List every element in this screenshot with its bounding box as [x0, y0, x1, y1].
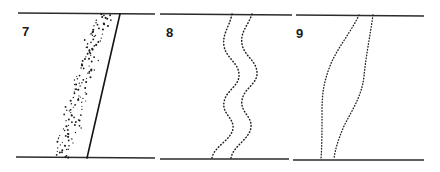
noise-dot: [59, 151, 61, 153]
noise-dot: [74, 79, 75, 80]
noise-dot: [80, 96, 81, 97]
noise-dot: [78, 95, 79, 96]
noise-dot: [85, 100, 86, 101]
noise-dot: [60, 144, 61, 145]
noise-dot: [73, 107, 74, 108]
noise-dot: [74, 124, 76, 126]
noise-dot: [62, 142, 63, 143]
noise-dot: [92, 38, 94, 40]
noise-dot: [63, 114, 65, 116]
noise-dot: [70, 109, 72, 111]
noise-dot: [90, 33, 92, 35]
noise-dot: [101, 16, 103, 18]
noise-dot: [67, 136, 69, 138]
noise-dot: [79, 75, 81, 77]
noise-dot: [93, 56, 95, 58]
noise-dot: [89, 76, 91, 78]
noise-dot: [67, 158, 68, 159]
noise-dot: [79, 82, 80, 83]
noise-dot: [74, 84, 76, 86]
figure-canvas: 7 8 9: [0, 0, 440, 172]
noise-dot: [90, 53, 92, 55]
noise-dot: [71, 114, 73, 116]
noise-dot: [67, 149, 69, 151]
rule-top-panel-9: [296, 15, 424, 16]
noise-dot: [79, 85, 80, 86]
noise-dot: [109, 14, 111, 16]
noise-dot: [90, 42, 92, 44]
noise-dot: [91, 61, 93, 63]
noise-dot: [106, 18, 108, 20]
figure-root: 7 8 9: [0, 0, 440, 172]
noise-dot: [77, 78, 79, 80]
noise-dot: [75, 88, 77, 90]
noise-dot: [98, 60, 99, 61]
noise-dot: [87, 53, 89, 55]
noise-dot: [92, 29, 94, 31]
noise-dot: [85, 81, 87, 83]
noise-dot: [87, 43, 89, 45]
noise-dot: [64, 130, 66, 132]
noise-dot: [59, 135, 60, 136]
noise-dot: [58, 137, 59, 138]
noise-dot: [56, 154, 58, 156]
noise-dot: [65, 106, 67, 108]
noise-dot: [88, 50, 90, 52]
noise-dot: [100, 40, 101, 41]
noise-dot: [72, 142, 73, 143]
noise-dot: [93, 36, 95, 38]
noise-dot: [77, 99, 79, 101]
noise-dot: [103, 23, 105, 25]
noise-dot: [86, 46, 88, 48]
noise-dot: [95, 35, 97, 37]
noise-dot: [101, 37, 102, 38]
noise-dot: [103, 14, 105, 16]
noise-dot: [81, 109, 82, 110]
noise-dot: [65, 135, 67, 137]
noise-dot: [68, 145, 70, 147]
noise-dot: [93, 25, 94, 26]
noise-dot: [85, 92, 86, 93]
noise-dot: [80, 127, 81, 128]
panel-number-9: 9: [296, 26, 303, 41]
noise-dot: [81, 65, 83, 67]
noise-dot: [81, 82, 82, 83]
noise-dot: [75, 132, 76, 133]
noise-dot: [80, 114, 82, 116]
noise-dot: [74, 91, 75, 92]
noise-dot: [93, 45, 95, 47]
noise-dot: [84, 87, 86, 89]
noise-dot: [92, 31, 94, 33]
noise-dot: [64, 145, 66, 147]
noise-dot: [81, 102, 82, 103]
noise-dot: [57, 147, 58, 148]
panel-number-8: 8: [166, 25, 173, 40]
rule-top-panel-7: [18, 13, 155, 14]
noise-dot: [98, 27, 100, 29]
noise-dot: [74, 92, 76, 94]
noise-dot: [75, 121, 77, 123]
noise-dot: [90, 55, 91, 56]
noise-dot: [61, 151, 63, 153]
noise-dot: [89, 71, 91, 73]
noise-dot: [65, 120, 66, 121]
noise-dot: [82, 60, 84, 62]
noise-dot: [92, 49, 94, 51]
noise-dot: [70, 112, 71, 113]
noise-dot: [81, 106, 82, 107]
noise-dot: [65, 125, 67, 127]
noise-dot: [88, 58, 90, 60]
noise-dot: [85, 93, 87, 95]
noise-dot: [68, 133, 70, 135]
noise-dot: [90, 69, 92, 71]
noise-dot: [84, 39, 86, 41]
noise-dot: [102, 34, 103, 35]
noise-dot: [84, 58, 86, 60]
noise-dot: [77, 89, 79, 91]
noise-dot: [110, 19, 112, 21]
noise-dot: [74, 104, 76, 106]
noise-dot: [92, 34, 93, 35]
rule-top-panel-8: [160, 14, 292, 15]
noise-dot: [71, 138, 73, 140]
rule-bottom-panel-7: [16, 157, 155, 158]
